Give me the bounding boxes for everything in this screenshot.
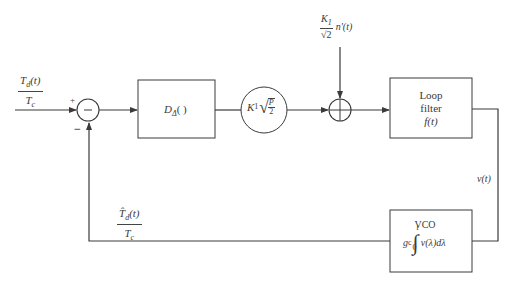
loop-filter-label: Loop filter f(t) — [390, 89, 472, 128]
output-signal-label: v(t) — [477, 174, 491, 184]
discriminator-label: DΔ( ) — [164, 104, 187, 118]
feedback-label: T̂d(t) Tc — [117, 207, 142, 242]
noise-label: K1 √2 n′(t) — [320, 14, 352, 40]
minus-sign: − — [74, 123, 81, 135]
vco-title: VCO — [390, 218, 460, 231]
gain-label: K1 √ P 2 — [247, 98, 275, 116]
vco-formula: gc ∫ t 0 v(λ)dλ — [403, 232, 446, 254]
input-label: Td(t) Tc — [18, 74, 43, 109]
plus-sign: + — [70, 96, 75, 105]
